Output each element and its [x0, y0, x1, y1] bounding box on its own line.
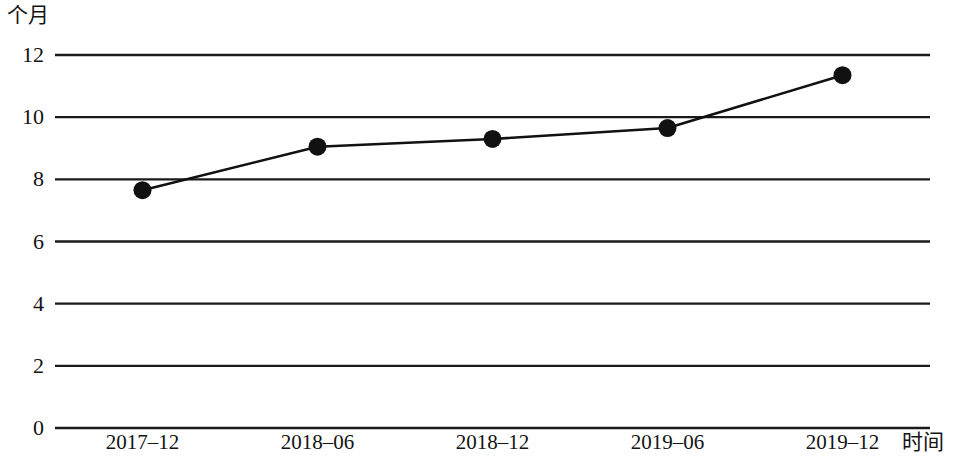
data-point-marker	[309, 138, 327, 156]
plot-area	[0, 0, 958, 459]
gridlines	[55, 55, 930, 428]
data-point-marker	[659, 119, 677, 137]
data-point-marker	[834, 66, 852, 84]
line-chart: 个月 时间 024681012 2017–122018–062018–12201…	[0, 0, 958, 459]
data-point-marker	[134, 181, 152, 199]
data-point-marker	[484, 130, 502, 148]
